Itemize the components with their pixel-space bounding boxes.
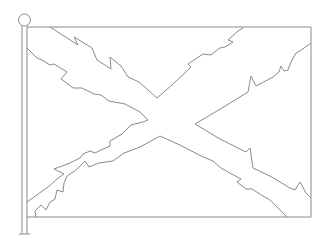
flag-drawing	[0, 0, 329, 248]
saltire-edge	[195, 43, 311, 198]
finial-icon	[19, 14, 31, 26]
saltire-edge	[27, 48, 148, 202]
saltire-edge	[50, 27, 243, 98]
flag-illustration	[0, 0, 329, 248]
flag-border	[27, 27, 311, 217]
